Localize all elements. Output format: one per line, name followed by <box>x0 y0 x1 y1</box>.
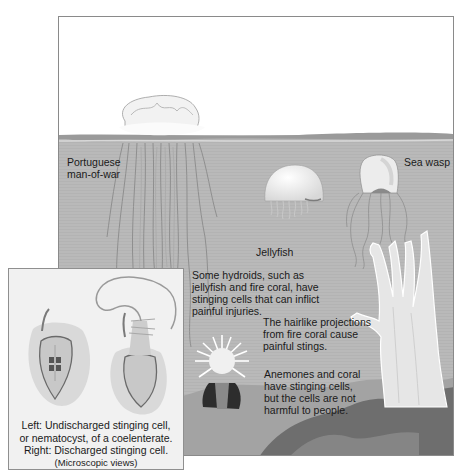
label-portuguese-man-of-war: Portuguese man-of-war <box>67 156 121 180</box>
undischarged-stinging-cell <box>28 309 90 406</box>
label-fire-coral: The hairlike projections from fire coral… <box>263 316 371 352</box>
nematocyst-inset: Left: Undischarged stinging cell, or nem… <box>8 268 184 470</box>
label-jellyfish: Jellyfish <box>256 246 293 258</box>
label-hydroids: Some hydroids, such as jellyfish and fir… <box>192 269 319 317</box>
label-sea-wasp: Sea wasp <box>404 156 450 168</box>
discharged-stinging-cell <box>96 277 176 414</box>
inset-caption: Left: Undischarged stinging cell, or nem… <box>9 419 183 469</box>
label-anemones: Anemones and coral have stinging cells, … <box>264 368 360 416</box>
inset-note: (Microscopic views) <box>9 457 183 470</box>
